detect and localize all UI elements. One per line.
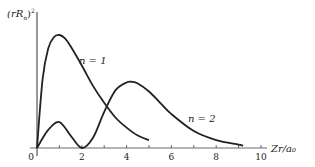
x-axis-label: Zr/a₀ <box>271 144 296 154</box>
x-tick-label: 8 <box>213 153 219 162</box>
x-axis-ticks <box>59 145 261 148</box>
x-tick-label: 6 <box>169 153 175 162</box>
y-axis-label: (rRn)2 <box>7 6 35 23</box>
label-n2: n = 2 <box>188 114 216 124</box>
curve-n1 <box>37 35 149 148</box>
label-n1: n = 1 <box>79 56 107 66</box>
radial-probability-chart <box>0 0 315 167</box>
x-tick-label: 10 <box>255 153 266 162</box>
y-label-sup: 2 <box>31 7 35 14</box>
x-tick-label: 2 <box>79 153 85 162</box>
x-tick-label: 0 <box>28 153 34 162</box>
x-tick-label: 4 <box>124 153 130 162</box>
y-label-main: (rR <box>7 8 23 19</box>
